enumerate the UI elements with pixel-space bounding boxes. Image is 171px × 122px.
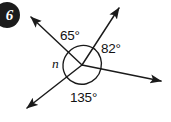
arc-angle-n — [63, 52, 68, 77]
problem-number-text: 6 — [0, 2, 20, 28]
arc-angle-135 — [67, 69, 101, 85]
angle-label-n: n — [52, 56, 59, 72]
angle-label-135: 135° — [70, 90, 97, 105]
problem-number-badge: 6 — [0, 2, 20, 28]
angle-label-82: 82° — [101, 41, 121, 56]
angle-label-65: 65° — [60, 28, 80, 43]
angle-diagram-figure: 6 65° 82° 135° n — [0, 0, 171, 122]
ray-right — [82, 65, 161, 81]
